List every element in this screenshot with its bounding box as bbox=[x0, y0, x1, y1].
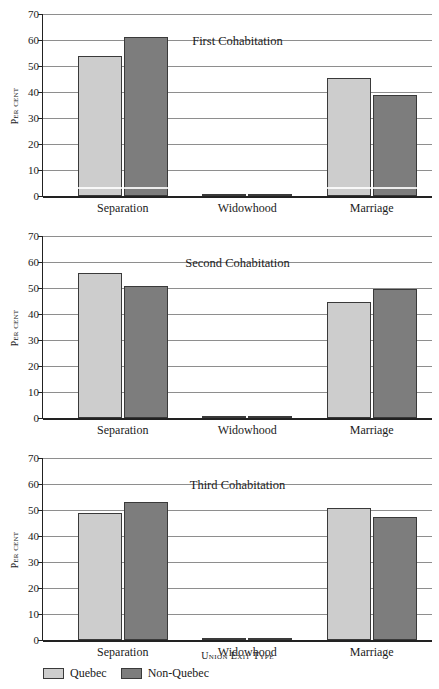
legend-label: Quebec bbox=[70, 666, 107, 681]
y-tick-label-20: 20 bbox=[28, 583, 39, 594]
bar-widowhood-quebec bbox=[202, 638, 246, 641]
y-axis-title: Per cent bbox=[10, 502, 20, 598]
panel-title: First Cohabitation bbox=[43, 34, 432, 49]
plot-area: 010203040506070First CohabitationSeparat… bbox=[43, 14, 432, 196]
bar-widowhood-non-quebec bbox=[248, 638, 292, 641]
chart-panel-3: Per cent010203040506070Third Cohabitatio… bbox=[0, 450, 439, 650]
y-tick-label-70: 70 bbox=[28, 231, 39, 242]
y-tick-label-0: 0 bbox=[34, 413, 40, 424]
y-tick-label-20: 20 bbox=[28, 139, 39, 150]
bar-widowhood-quebec bbox=[202, 416, 246, 419]
gridline-0 bbox=[43, 640, 432, 642]
legend-swatch-icon bbox=[121, 668, 142, 679]
y-axis-title: Per cent bbox=[10, 280, 20, 376]
cohabitation-exit-type-figure: Per cent010203040506070First Cohabitatio… bbox=[0, 0, 439, 689]
legend-item-non-quebec[interactable]: Non-Quebec bbox=[121, 666, 209, 681]
y-tick-label-0: 0 bbox=[34, 635, 40, 646]
x-category-label-marriage: Marriage bbox=[350, 201, 394, 216]
legend: QuebecNon-Quebec bbox=[43, 666, 432, 681]
x-category-label-marriage: Marriage bbox=[350, 423, 394, 438]
bar-marriage-non-quebec bbox=[373, 95, 417, 196]
gridline-0 bbox=[43, 196, 432, 198]
x-category-label-widowhood: Widowhood bbox=[218, 201, 277, 216]
y-tick-label-40: 40 bbox=[28, 309, 39, 320]
y-tick-label-10: 10 bbox=[28, 387, 39, 398]
plot-area: 010203040506070Third CohabitationSeparat… bbox=[43, 458, 432, 640]
x-axis-title: Union Exit Type bbox=[43, 650, 432, 661]
panel-title: Third Cohabitation bbox=[43, 478, 432, 493]
chart-panel-2: Per cent010203040506070Second Cohabitati… bbox=[0, 228, 439, 428]
bar-marriage-quebec bbox=[327, 302, 371, 418]
x-category-label-widowhood: Widowhood bbox=[218, 423, 277, 438]
bar-separation-quebec bbox=[78, 513, 122, 640]
bar-marriage-non-quebec bbox=[373, 517, 417, 640]
gridline-50 bbox=[43, 510, 432, 511]
bar-widowhood-non-quebec bbox=[248, 194, 292, 197]
y-tick-label-10: 10 bbox=[28, 609, 39, 620]
y-tick-label-0: 0 bbox=[34, 191, 40, 202]
bar-widowhood-non-quebec bbox=[248, 416, 292, 419]
legend-label: Non-Quebec bbox=[148, 666, 209, 681]
y-tick-label-50: 50 bbox=[28, 61, 39, 72]
y-tick-label-30: 30 bbox=[28, 335, 39, 346]
bar-separation-quebec bbox=[78, 56, 122, 196]
y-tick-label-30: 30 bbox=[28, 557, 39, 568]
y-tick-label-40: 40 bbox=[28, 531, 39, 542]
bar-separation-non-quebec bbox=[124, 502, 168, 640]
plot-area: 010203040506070Second CohabitationSepara… bbox=[43, 236, 432, 418]
y-axis-title: Per cent bbox=[10, 58, 20, 154]
x-category-label-separation: Separation bbox=[97, 423, 148, 438]
bar-marriage-quebec bbox=[327, 508, 371, 640]
bar-separation-non-quebec bbox=[124, 286, 168, 418]
y-tick-label-50: 50 bbox=[28, 283, 39, 294]
y-tick-label-70: 70 bbox=[28, 9, 39, 20]
legend-item-quebec[interactable]: Quebec bbox=[43, 666, 107, 681]
chart-panel-1: Per cent010203040506070First Cohabitatio… bbox=[0, 6, 439, 206]
gridline-70 bbox=[43, 458, 432, 459]
y-tick-label-70: 70 bbox=[28, 453, 39, 464]
x-category-label-separation: Separation bbox=[97, 201, 148, 216]
bar-marriage-quebec bbox=[327, 78, 371, 196]
bar-widowhood-quebec bbox=[202, 194, 246, 197]
panel-title: Second Cohabitation bbox=[43, 256, 432, 271]
gridline-70 bbox=[43, 236, 432, 237]
y-tick-label-30: 30 bbox=[28, 113, 39, 124]
bar-separation-non-quebec bbox=[124, 37, 168, 196]
y-tick-label-40: 40 bbox=[28, 87, 39, 98]
y-tick-label-60: 60 bbox=[28, 35, 39, 46]
y-tick-label-60: 60 bbox=[28, 257, 39, 268]
y-tick-label-60: 60 bbox=[28, 479, 39, 490]
bar-marriage-non-quebec bbox=[373, 289, 417, 418]
y-tick-label-10: 10 bbox=[28, 165, 39, 176]
y-tick-label-50: 50 bbox=[28, 505, 39, 516]
bar-separation-quebec bbox=[78, 273, 122, 418]
gridline-70 bbox=[43, 14, 432, 15]
y-tick-label-20: 20 bbox=[28, 361, 39, 372]
legend-swatch-icon bbox=[43, 668, 64, 679]
gridline-0 bbox=[43, 418, 432, 420]
